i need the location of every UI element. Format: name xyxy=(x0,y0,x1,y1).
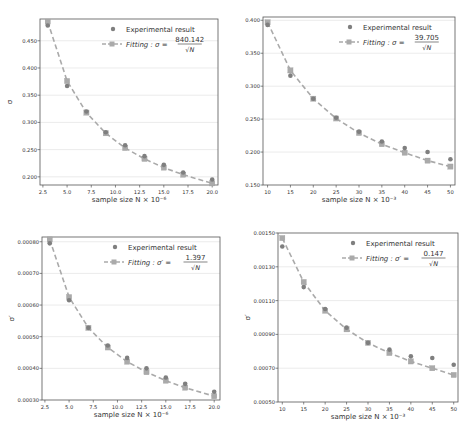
x-tick-label: 40 xyxy=(401,189,408,195)
x-tick-label: 5.0 xyxy=(65,404,73,410)
fit-denominator: √N xyxy=(191,264,200,272)
x-tick-label: 35 xyxy=(386,406,393,412)
x-axis-label: sample size N × 10⁻³ xyxy=(331,413,406,421)
y-tick-label: 0.250 xyxy=(245,116,260,122)
y-axis-label: σ′ xyxy=(244,314,252,320)
legend-label-experimental: Experimental result xyxy=(366,240,435,248)
y-tick-label: 0.00130 xyxy=(254,264,275,270)
legend-label-fit: Fitting : σ = xyxy=(363,39,405,47)
legend: Experimental resultFitting : σ =840.142√… xyxy=(102,26,204,54)
y-tick-label: 0.00050 xyxy=(18,334,39,340)
y-axis-label: σ xyxy=(6,99,14,104)
fit-numerator: 1.397 xyxy=(185,254,205,262)
y-tick-label: 0.00070 xyxy=(254,365,275,371)
y-tick-label: 0.200 xyxy=(22,174,37,180)
grid-lines xyxy=(40,41,218,177)
y-axis-ticks: 0.1500.2000.2500.3000.3500.400 xyxy=(245,17,263,188)
y-tick-label: 0.00030 xyxy=(18,397,39,403)
x-axis-ticks: 101520253035404550 xyxy=(279,402,457,412)
x-tick-label: 20.0 xyxy=(208,404,220,410)
legend-label-experimental: Experimental result xyxy=(126,26,195,34)
x-tick-label: 20.0 xyxy=(206,189,218,195)
legend: Experimental resultFitting : σ =39.705√N xyxy=(339,24,439,52)
legend-marker-fit xyxy=(112,260,117,265)
x-tick-label: 15 xyxy=(300,406,307,412)
x-tick-label: 30 xyxy=(356,189,363,195)
y-tick-label: 0.350 xyxy=(245,50,260,56)
x-tick-label: 20 xyxy=(310,189,317,195)
legend-label-fit: Fitting : σ = xyxy=(126,41,168,49)
y-tick-label: 0.00050 xyxy=(254,399,275,405)
legend-marker-experimental xyxy=(113,245,117,249)
y-tick-label: 0.200 xyxy=(245,149,260,155)
y-tick-label: 0.150 xyxy=(245,182,260,188)
legend-label-fit: Fitting : σ′ = xyxy=(128,259,171,267)
x-tick-label: 45 xyxy=(424,189,431,195)
y-tick-label: 0.300 xyxy=(245,83,260,89)
y-axis-label: σ xyxy=(236,98,237,103)
x-axis-ticks: 2.55.07.510.012.515.017.520.0 xyxy=(41,400,220,410)
x-tick-label: 15.0 xyxy=(160,404,172,410)
x-axis-label: sample size N × 10⁻⁶ xyxy=(94,411,169,419)
x-tick-label: 10 xyxy=(264,189,271,195)
y-tick-label: 0.400 xyxy=(245,17,260,23)
x-tick-label: 35 xyxy=(379,189,386,195)
x-tick-label: 15 xyxy=(287,189,294,195)
legend: Experimental resultFitting : σ′ =0.147√N xyxy=(342,240,446,268)
chart-top-left: 0.2000.2500.3000.3500.4000.4502.55.07.51… xyxy=(0,0,236,216)
chart-top-right: 0.1500.2000.2500.3000.3500.4001015202530… xyxy=(236,0,472,216)
y-tick-label: 0.00070 xyxy=(18,270,39,276)
legend-label-experimental: Experimental result xyxy=(128,244,197,252)
x-tick-label: 7.5 xyxy=(89,404,97,410)
y-axis-ticks: 0.2000.2500.3000.3500.4000.450 xyxy=(22,38,40,180)
y-axis-label: σ′ xyxy=(8,315,16,321)
fit-denominator: √N xyxy=(185,46,194,54)
x-tick-label: 17.5 xyxy=(184,404,196,410)
legend-marker-fit xyxy=(347,40,352,45)
legend-marker-experimental xyxy=(351,241,355,245)
fit-numerator: 840.142 xyxy=(175,36,204,44)
fit-numerator: 39.705 xyxy=(415,34,440,42)
fit-denominator: √N xyxy=(422,44,431,52)
x-tick-label: 10.0 xyxy=(110,189,122,195)
x-tick-label: 25 xyxy=(343,406,350,412)
x-tick-label: 30 xyxy=(365,406,372,412)
chart-bottom-right: 0.000500.000700.000900.001100.001300.001… xyxy=(236,216,472,433)
x-tick-label: 10.0 xyxy=(112,404,124,410)
y-tick-label: 0.00060 xyxy=(18,302,39,308)
y-tick-label: 0.300 xyxy=(22,119,37,125)
x-tick-label: 12.5 xyxy=(134,189,146,195)
x-axis-ticks: 101520253035404550 xyxy=(264,185,453,195)
legend-marker-experimental xyxy=(348,25,352,29)
x-tick-label: 25 xyxy=(333,189,340,195)
y-tick-label: 0.400 xyxy=(22,65,37,71)
fit-denominator: √N xyxy=(429,260,438,268)
x-tick-label: 2.5 xyxy=(41,404,49,410)
x-axis-label: sample size N × 10⁻³ xyxy=(322,196,397,204)
legend-label-fit: Fitting : σ′ = xyxy=(366,255,409,263)
x-tick-label: 5.0 xyxy=(63,189,71,195)
legend: Experimental resultFitting : σ′ =1.397√N xyxy=(104,244,208,272)
y-axis-ticks: 0.000300.000400.000500.000600.000700.000… xyxy=(18,239,42,403)
x-tick-label: 20 xyxy=(322,406,329,412)
legend-marker-fit xyxy=(110,42,115,47)
x-tick-label: 12.5 xyxy=(136,404,148,410)
y-tick-label: 0.450 xyxy=(22,38,37,44)
legend-label-experimental: Experimental result xyxy=(363,24,432,32)
x-axis-label: sample size N × 10⁻⁶ xyxy=(92,196,167,204)
x-axis-ticks: 2.55.07.510.012.515.017.520.0 xyxy=(39,185,218,195)
y-axis-ticks: 0.000500.000700.000900.001100.001300.001… xyxy=(254,230,278,405)
y-tick-label: 0.00080 xyxy=(18,239,39,245)
x-tick-label: 17.5 xyxy=(182,189,194,195)
x-tick-label: 50 xyxy=(447,189,454,195)
y-tick-label: 0.00150 xyxy=(254,230,275,236)
x-tick-label: 7.5 xyxy=(87,189,95,195)
y-tick-label: 0.250 xyxy=(22,147,37,153)
x-tick-label: 45 xyxy=(429,406,436,412)
y-tick-label: 0.00040 xyxy=(18,365,39,371)
y-tick-label: 0.00110 xyxy=(254,298,275,304)
y-tick-label: 0.00090 xyxy=(254,331,275,337)
y-tick-label: 0.350 xyxy=(22,92,37,98)
x-tick-label: 15.0 xyxy=(158,189,170,195)
x-tick-label: 50 xyxy=(450,406,457,412)
